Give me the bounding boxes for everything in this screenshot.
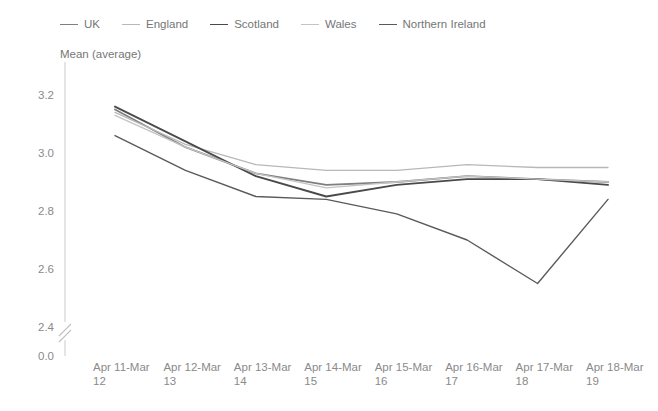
x-tick-label-line1: Apr 11-Mar <box>93 360 167 374</box>
x-tick-label: Apr 16-Mar17 <box>445 360 519 388</box>
x-tick-label-line1: Apr 12-Mar <box>163 360 237 374</box>
x-tick-label-line1: Apr 14-Mar <box>304 360 378 374</box>
series-line-northern-ireland <box>115 136 608 284</box>
x-tick-label: Apr 15-Mar16 <box>375 360 449 388</box>
x-tick-label: Apr 13-Mar14 <box>234 360 308 388</box>
series-line-wales <box>115 115 608 188</box>
x-tick-label-line1: Apr 13-Mar <box>234 360 308 374</box>
plot-area <box>0 0 658 411</box>
line-chart: UK England Scotland Wales Northern Irela… <box>0 0 658 411</box>
x-tick-label: Apr 17-Mar18 <box>516 360 590 388</box>
x-tick-label-line2: 16 <box>375 374 449 388</box>
x-tick-label-line1: Apr 18-Mar <box>586 360 658 374</box>
x-tick-label-line1: Apr 17-Mar <box>516 360 590 374</box>
x-tick-label-line1: Apr 15-Mar <box>375 360 449 374</box>
x-tick-label-line2: 17 <box>445 374 519 388</box>
x-tick-label: Apr 12-Mar13 <box>163 360 237 388</box>
x-tick-label-line2: 14 <box>234 374 308 388</box>
x-tick-label-line2: 12 <box>93 374 167 388</box>
x-tick-label: Apr 11-Mar12 <box>93 360 167 388</box>
data-series-group <box>115 107 608 284</box>
x-tick-label-line2: 18 <box>516 374 590 388</box>
x-tick-label-line2: 19 <box>586 374 658 388</box>
x-axis-tick-labels: Apr 11-Mar12Apr 12-Mar13Apr 13-Mar14Apr … <box>0 360 658 406</box>
series-line-uk <box>115 110 608 185</box>
x-tick-label: Apr 14-Mar15 <box>304 360 378 388</box>
x-tick-label-line2: 15 <box>304 374 378 388</box>
x-tick-label: Apr 18-Mar19 <box>586 360 658 388</box>
axis-break-mark-upper <box>59 324 71 336</box>
y-axis-line <box>59 62 71 356</box>
x-tick-label-line2: 13 <box>163 374 237 388</box>
series-line-england <box>115 112 608 170</box>
x-tick-label-line1: Apr 16-Mar <box>445 360 519 374</box>
